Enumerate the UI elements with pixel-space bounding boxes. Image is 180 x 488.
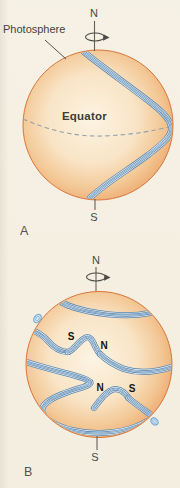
polarity-label-upper-right: N — [100, 340, 107, 351]
north-pole-label-b: N — [92, 254, 100, 266]
polarity-label-lower-left: N — [96, 382, 103, 393]
polarity-label-upper-left: S — [68, 331, 75, 342]
limb-loop-right — [150, 417, 160, 427]
polarity-label-lower-right: S — [129, 383, 136, 394]
panel-letter-b: B — [24, 465, 32, 479]
photosphere-leader-line — [45, 40, 66, 59]
south-pole-label-a: S — [90, 211, 97, 223]
photosphere-label: Photosphere — [3, 23, 65, 35]
sun-sphere-a — [23, 50, 173, 200]
north-pole-label-a: N — [90, 7, 98, 19]
diagram-svg — [0, 0, 180, 488]
equator-label: Equator — [62, 110, 107, 122]
rotation-arrow-icon-b — [87, 273, 111, 281]
figure-canvas: Photosphere Equator N S A N S S N N S B — [0, 0, 180, 488]
rotation-arrow-icon-a — [86, 33, 110, 41]
panel-letter-a: A — [20, 224, 28, 238]
south-pole-label-b: S — [91, 451, 98, 463]
